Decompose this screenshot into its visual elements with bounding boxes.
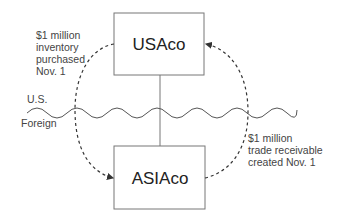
svg-text:purchased: purchased [36,53,85,65]
receivable-note: $1 million trade receivable created Nov.… [248,132,323,168]
svg-text:Nov. 1: Nov. 1 [36,65,66,77]
usaco-label: USAco [133,35,186,54]
inventory-note: $1 million inventory purchased Nov. 1 [36,29,85,77]
asiaco-label: ASIAco [132,169,189,188]
diagram-canvas: USAco ASIAco U.S. Foreign $1 million inv… [0,0,337,221]
us-label: U.S. [27,93,47,105]
foreign-label: Foreign [21,117,57,129]
svg-text:created Nov. 1: created Nov. 1 [248,156,316,168]
svg-text:trade receivable: trade receivable [248,144,323,156]
svg-text:$1 million: $1 million [36,29,81,41]
receivable-flow-arrow [205,44,248,178]
border-wave [27,108,297,118]
svg-text:inventory: inventory [36,41,79,53]
svg-text:$1 million: $1 million [248,132,293,144]
